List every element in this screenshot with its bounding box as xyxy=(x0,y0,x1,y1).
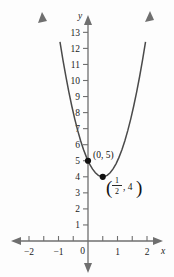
y-intercept-label: (0, 5) xyxy=(93,150,114,161)
x-axis-tick-label: 1 xyxy=(115,247,120,257)
y-axis-tick-label: 10 xyxy=(71,76,81,86)
y-axis-tick-label: 6 xyxy=(75,140,80,150)
x-axis-tick-label: 2 xyxy=(145,247,150,257)
y-intercept-point xyxy=(85,158,91,164)
origin-label: 0 xyxy=(80,246,85,256)
y-axis-tick-label: 4 xyxy=(75,172,80,182)
y-axis-ticks xyxy=(83,32,88,225)
y-axis-label: y xyxy=(77,11,83,21)
x-axis-tick-label: −1 xyxy=(53,247,63,257)
y-axis-tick-label: 13 xyxy=(71,28,81,38)
x-axis-label: x xyxy=(160,246,166,256)
y-axis-tick-label: 3 xyxy=(75,188,80,198)
y-axis-tick-label: 5 xyxy=(75,156,80,166)
coordinate-plane-svg: −2−112 12345678910111213 y x 0 (0, 5) ( … xyxy=(0,0,174,277)
y-axis-tick-label: 11 xyxy=(71,60,80,70)
x-axis-left-arrow-icon xyxy=(11,237,21,245)
y-axis-tick-label: 1 xyxy=(75,220,80,230)
vertex-label-denominator: 2 xyxy=(115,187,119,196)
y-axis-tick-label: 9 xyxy=(75,92,80,102)
vertex-label-open-paren: ( xyxy=(106,177,112,199)
y-axis-tick-label: 12 xyxy=(71,44,81,54)
y-axis-tick-label: 8 xyxy=(75,108,80,118)
x-axis-right-arrow-icon xyxy=(153,237,163,245)
x-axis-tick-label: −2 xyxy=(24,247,34,257)
parabola-right-arm-arrow-icon xyxy=(145,11,154,22)
vertex-label-close-paren: ) xyxy=(136,177,142,199)
y-axis-tick-label: 2 xyxy=(75,204,80,214)
vertex-label-numerator: 1 xyxy=(115,176,119,185)
x-axis-tick-labels: −2−112 xyxy=(24,247,150,257)
vertex-point xyxy=(100,174,106,180)
parabola-left-arm-arrow-icon xyxy=(38,12,47,23)
y-axis-up-arrow-icon xyxy=(84,15,92,25)
parabola-graph-figure: −2−112 12345678910111213 y x 0 (0, 5) ( … xyxy=(0,0,174,277)
vertex-label-rest: , 4 xyxy=(123,182,133,192)
x-axis-group: −2−112 xyxy=(11,236,163,257)
y-axis-down-arrow-icon xyxy=(84,263,92,273)
vertex-label: ( 1 2 , 4 ) xyxy=(106,176,142,199)
y-axis-tick-labels: 12345678910111213 xyxy=(71,28,81,231)
